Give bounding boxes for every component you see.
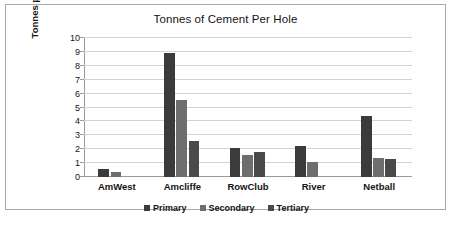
bar	[230, 148, 241, 177]
y-axis-tick	[80, 176, 84, 177]
bar	[254, 152, 265, 177]
figure-caption	[6, 214, 446, 226]
y-axis-tick	[80, 37, 84, 38]
bar-group	[295, 38, 332, 177]
legend-label: Secondary	[209, 203, 255, 213]
x-axis-label: Amcliffe	[150, 181, 216, 192]
legend-label: Primary	[153, 203, 187, 213]
y-axis-tick	[80, 162, 84, 163]
y-axis-title: Tonnes per Hole	[28, 0, 42, 71]
y-axis-tick	[80, 107, 84, 108]
y-axis-tick-label: 5	[75, 103, 80, 112]
x-axis-label: River	[281, 181, 347, 192]
bar	[189, 141, 200, 177]
legend-item[interactable]: Tertiary	[268, 203, 309, 213]
bar	[361, 116, 372, 177]
x-axis-label: Netball	[346, 181, 412, 192]
y-axis-tick-label: 10	[70, 34, 80, 43]
plot-area	[84, 38, 412, 177]
bar	[111, 172, 122, 177]
bar-group	[98, 38, 135, 177]
bar	[164, 53, 175, 177]
bar	[98, 169, 109, 177]
legend-swatch-icon	[200, 205, 206, 211]
chart-title: Tonnes of Cement Per Hole	[6, 13, 445, 25]
y-axis-tick	[80, 134, 84, 135]
bar	[295, 146, 306, 177]
legend-swatch-icon	[268, 205, 274, 211]
y-axis-tick-labels: 109876543210	[64, 38, 80, 177]
bar	[385, 159, 396, 177]
bar-group	[164, 38, 201, 177]
bar-group	[361, 38, 398, 177]
x-axis-label: RowClub	[215, 181, 281, 192]
y-axis-tick	[80, 93, 84, 94]
legend-swatch-icon	[144, 205, 150, 211]
y-axis-title-container: Tonnes per Hole	[50, 38, 64, 177]
y-axis-line	[84, 38, 85, 177]
chart-container: Tonnes of Cement Per Hole Tonnes per Hol…	[5, 4, 446, 210]
y-axis-tick	[80, 120, 84, 121]
y-axis-tick	[80, 79, 84, 80]
bar-group	[230, 38, 267, 177]
y-axis-tick	[80, 51, 84, 52]
bar	[307, 162, 318, 177]
x-axis-label: AmWest	[84, 181, 150, 192]
bar	[176, 100, 187, 177]
x-axis-category-labels: AmWestAmcliffeRowClubRiverNetball	[84, 181, 412, 194]
legend-label: Tertiary	[277, 203, 309, 213]
bar	[373, 158, 384, 177]
bar	[242, 155, 253, 177]
y-axis-tick	[80, 148, 84, 149]
y-axis-tick	[80, 65, 84, 66]
legend-item[interactable]: Secondary	[200, 203, 255, 213]
chart-legend: PrimarySecondaryTertiary	[6, 202, 447, 214]
legend-item[interactable]: Primary	[144, 203, 187, 213]
y-axis-tick-label: 0	[75, 173, 80, 182]
